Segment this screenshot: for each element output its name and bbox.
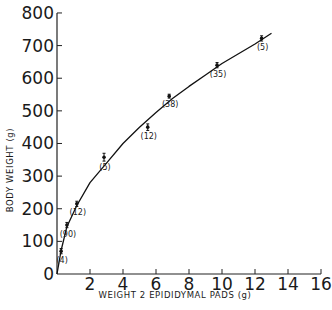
y-tick-label: 400	[22, 133, 54, 153]
x-axis-label: WEIGHT 2 EPIDIDYMAL PADS (g)	[98, 290, 251, 300]
y-tick-label: 300	[22, 166, 54, 186]
y-tick-label: 800	[22, 3, 54, 23]
data-point: (90)	[60, 222, 76, 238]
sample-size-label: (5)	[99, 163, 110, 172]
data-point: (35)	[210, 63, 226, 79]
sample-size-label: (5)	[257, 43, 268, 52]
curve-path	[57, 33, 272, 274]
sample-size-label: (38)	[162, 100, 178, 109]
data-point: (12)	[141, 124, 157, 142]
point-marker	[260, 37, 264, 41]
data-point: (5)	[99, 153, 110, 172]
point-marker	[59, 249, 63, 253]
data-point: (5)	[257, 36, 268, 52]
sample-size-label: (35)	[210, 70, 226, 79]
y-tick-label: 600	[22, 68, 54, 88]
sample-size-label: (90)	[60, 230, 76, 239]
y-tick-label: 200	[22, 199, 54, 219]
y-tick-label: 0	[43, 264, 54, 284]
point-marker	[146, 125, 150, 129]
y-tick-label: 500	[22, 101, 54, 121]
point-marker	[167, 94, 171, 98]
point-marker	[215, 63, 219, 67]
y-tick-label: 700	[22, 36, 54, 56]
sample-size-label: (4)	[56, 256, 67, 265]
x-tick-label: 2	[85, 274, 96, 294]
data-point: (4)	[56, 249, 67, 265]
data-point: (12)	[70, 201, 86, 217]
y-tick-label: 100	[22, 231, 54, 251]
sample-size-label: (12)	[70, 208, 86, 217]
data-points: (4)(90)(12)(5)(12)(38)(35)(5)	[56, 36, 268, 265]
fitted-curve	[57, 33, 272, 274]
x-tick-label: 16	[310, 274, 332, 294]
axes: 0100200300400500600700800246810121416	[22, 3, 332, 294]
point-marker	[75, 202, 79, 206]
x-tick-label: 14	[277, 274, 299, 294]
chart: 0100200300400500600700800246810121416 (4…	[0, 0, 332, 310]
point-marker	[65, 223, 69, 227]
point-marker	[102, 155, 106, 159]
sample-size-label: (12)	[141, 132, 157, 141]
y-axis-label: BODY WEIGHT (g)	[5, 128, 15, 213]
